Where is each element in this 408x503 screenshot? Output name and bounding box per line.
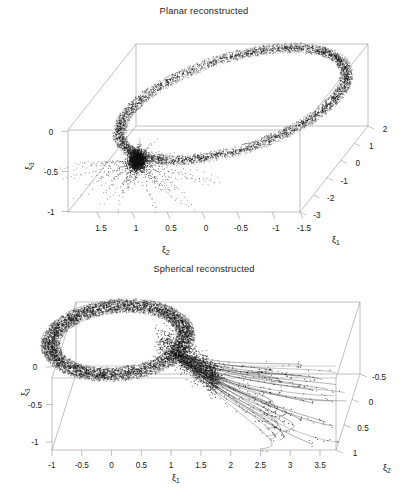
tick-xi1-spherical-0: -1 — [48, 461, 55, 470]
tick-xi1-spherical-5: 1.5 — [195, 461, 206, 470]
tick-xi2-planar-6: -1.5 — [297, 224, 311, 233]
axis-label-xi3-spherical-glyph: ξ — [20, 392, 30, 396]
tick-xi1-spherical-6: 2 — [228, 461, 233, 470]
scatter-torus-ring-planar — [112, 42, 353, 165]
tick-xi2-spherical-1: 0 — [369, 398, 374, 407]
tick-xi1-spherical-1: -0.5 — [75, 461, 89, 470]
tick-xi2-planar-3: 0 — [204, 224, 209, 233]
axis-label-xi2-spherical-sub: 2 — [387, 467, 391, 474]
tick-xi1-planar-4: -2 — [327, 193, 334, 202]
tick-xi2-spherical-3: 1 — [353, 449, 358, 458]
caption-fragment — [0, 494, 408, 503]
tick-xi2-spherical-0: -0.5 — [372, 373, 386, 382]
axis-label-xi3-planar-sub: 3 — [28, 162, 35, 166]
tick-xi3-planar-2: -1 — [47, 207, 54, 216]
panel-planar-reconstructed: Planar reconstructed ξ3 ξ2 ξ1 0-0.5-11.5… — [0, 0, 408, 260]
tick-xi2-planar-5: -1 — [272, 224, 279, 233]
plot-area-planar — [0, 0, 408, 260]
axis-label-xi3-planar-glyph: ξ — [24, 166, 34, 170]
tick-xi1-spherical-3: 0.5 — [136, 461, 147, 470]
panel-spherical-reconstructed: Spherical reconstructed ξ3 ξ1 ξ2 0-0.5-1… — [0, 260, 408, 503]
axis-label-xi3-planar: ξ3 — [24, 162, 35, 170]
axis-label-xi1-spherical-sub: 1 — [176, 477, 180, 484]
tick-xi1-planar-3: -1 — [341, 176, 348, 185]
tick-xi2-planar-1: 1 — [134, 224, 139, 233]
axis-label-xi3-spherical: ξ3 — [20, 388, 31, 396]
tick-xi2-planar-2: 0.5 — [165, 224, 176, 233]
tick-xi3-spherical-2: -1 — [31, 438, 38, 447]
tick-xi1-spherical-9: 3.5 — [314, 461, 325, 470]
tick-xi1-planar-1: 1 — [369, 142, 374, 151]
scatter-radial-spray-planar — [44, 138, 220, 214]
tick-xi3-planar-1: -0.5 — [44, 167, 58, 176]
tick-xi2-planar-4: -0.5 — [234, 224, 248, 233]
tick-xi3-spherical-0: 0 — [33, 363, 38, 372]
axis-label-xi2-planar-sub: 2 — [166, 249, 170, 256]
tick-xi1-planar-2: 0 — [356, 159, 361, 168]
axis-label-xi1-planar: ξ1 — [332, 235, 340, 246]
axis-label-xi1-planar-sub: 1 — [336, 239, 340, 246]
tick-xi1-planar-0: 2 — [383, 125, 388, 134]
tick-xi1-spherical-4: 1 — [169, 461, 174, 470]
tick-xi3-spherical-1: -0.5 — [28, 400, 42, 409]
tick-xi1-spherical-7: 2.5 — [255, 461, 266, 470]
tick-xi1-spherical-8: 3 — [288, 461, 293, 470]
tick-xi1-spherical-2: 0 — [109, 461, 114, 470]
axis-label-xi2-planar: ξ2 — [162, 245, 170, 256]
axis-label-xi2-spherical: ξ2 — [383, 463, 391, 474]
axis-label-xi1-spherical: ξ1 — [172, 473, 180, 484]
box-frame-planar — [68, 44, 368, 212]
tick-xi1-planar-5: -3 — [313, 211, 320, 220]
tick-xi2-planar-0: 1.5 — [95, 224, 106, 233]
tick-xi3-planar-0: 0 — [49, 127, 54, 136]
tick-xi2-spherical-2: 0.5 — [357, 423, 368, 432]
figure-root: Planar reconstructed ξ3 ξ2 ξ1 0-0.5-11.5… — [0, 0, 408, 503]
axis-label-xi3-spherical-sub: 3 — [24, 388, 31, 392]
